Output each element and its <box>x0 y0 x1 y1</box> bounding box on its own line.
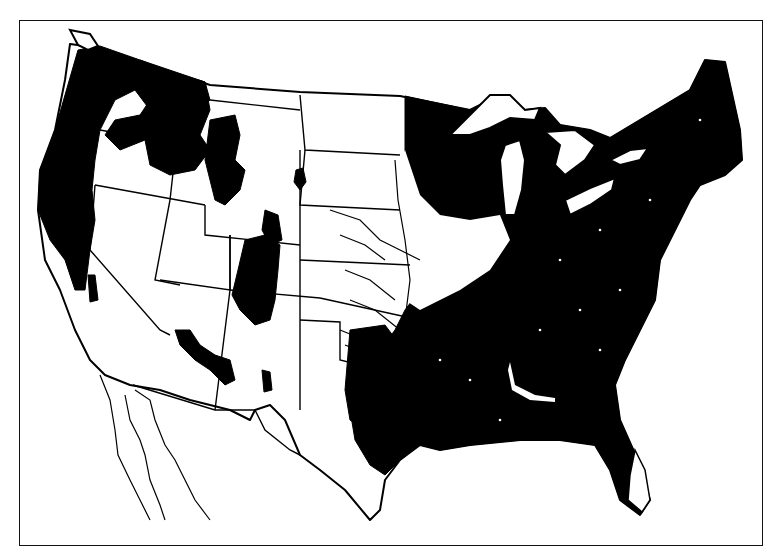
forest-new-mexico <box>262 370 272 392</box>
gulf-of-california-west <box>125 395 165 520</box>
us-forest-map <box>0 0 778 560</box>
gulf-of-california-east <box>135 390 210 520</box>
atlantic-coast-strip <box>620 378 628 412</box>
